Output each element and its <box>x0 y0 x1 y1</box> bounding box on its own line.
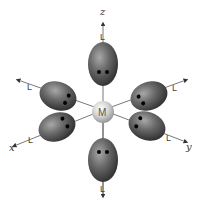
ligand-label-top: L <box>100 32 105 42</box>
x-axis-label: x <box>9 142 15 153</box>
ligand-label-upper-left: L <box>27 82 32 92</box>
ligand-lobe-lower-left <box>34 107 79 146</box>
y-axis-label: y <box>185 141 192 152</box>
ligand-lobe-upper-left <box>35 76 80 115</box>
ligand-label-upper-right: L <box>172 83 177 93</box>
ligand-lobe-top <box>88 42 118 86</box>
z-axis-label: z <box>99 6 106 17</box>
ligand-lobe-lower-right <box>124 106 169 145</box>
ligand-label-lower-right: L <box>166 133 171 143</box>
central-metal-atom: M <box>92 101 114 123</box>
octahedral-complex-diagram: z x y L L L L L L <box>0 0 197 210</box>
ligand-label-bottom: L <box>100 184 105 194</box>
electron-dot <box>105 150 109 154</box>
electron-dot <box>105 70 109 74</box>
ligand-lobe-bottom <box>88 138 118 182</box>
metal-label: M <box>98 107 106 118</box>
electron-dot <box>97 70 101 74</box>
electron-dot <box>97 150 101 154</box>
ligand-lobe-upper-right <box>126 76 171 115</box>
ligand-label-lower-left: L <box>28 135 33 145</box>
